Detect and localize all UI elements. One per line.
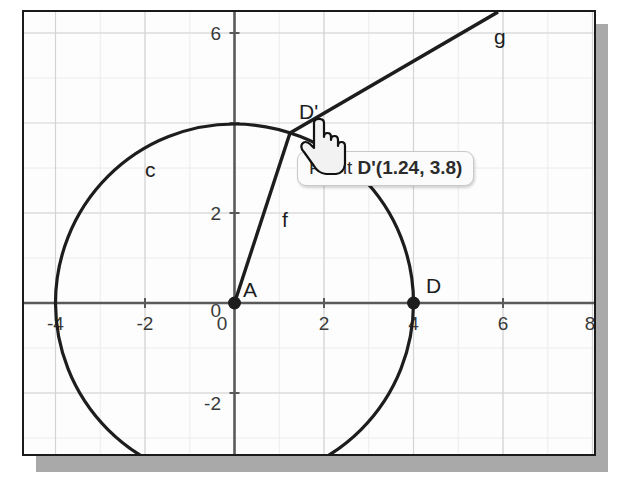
x-axis-tick-labels: -4 -2 0 2 4 6 8 [47,313,594,334]
grid-minor-lines [24,12,594,454]
tooltip-value: D'(1.24, 3.8) [358,157,463,178]
ytick-label: -2 [204,393,221,414]
label-circle-c: c [145,158,156,181]
label-ray-g: g [494,25,506,48]
ytick-label: 2 [210,203,221,224]
label-point-A: A [243,278,257,301]
y-axis-tick-labels: 6 2 0 -2 [204,23,221,414]
xtick-label: 6 [498,313,509,334]
ytick-label: 0 [210,300,221,321]
label-segment-f: f [282,208,288,231]
ytick-label: 6 [210,23,221,44]
xtick-label: 2 [319,313,330,334]
point-D[interactable] [407,297,420,310]
point-A[interactable] [228,297,241,310]
geometry-drawing[interactable]: -4 -2 0 2 4 6 8 6 2 0 -2 [24,12,594,454]
screenshot-root: -4 -2 0 2 4 6 8 6 2 0 -2 [0,0,621,479]
ray-g[interactable] [290,12,498,133]
xtick-label: -2 [137,313,154,334]
pointing-hand-cursor [296,118,352,180]
xtick-label: 8 [585,313,594,334]
label-point-D: D [426,274,441,297]
geometry-canvas[interactable]: -4 -2 0 2 4 6 8 6 2 0 -2 [22,10,596,456]
